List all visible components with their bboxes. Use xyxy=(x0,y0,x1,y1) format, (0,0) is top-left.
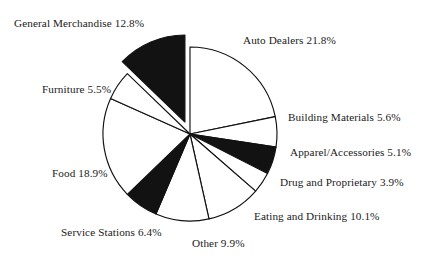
pie-slice-label: Drug and Proprietary 3.9% xyxy=(280,177,404,188)
pie-slice-label: Other 9.9% xyxy=(192,238,245,249)
pie-slice-label: Auto Dealers 21.8% xyxy=(243,35,336,46)
pie-slice-label: Building Materials 5.6% xyxy=(288,112,401,123)
pie-chart-figure: Auto Dealers 21.8%Building Materials 5.6… xyxy=(0,0,422,260)
pie-slice-label: General Merchandise 12.8% xyxy=(14,18,144,29)
pie-slice-label: Furniture 5.5% xyxy=(42,84,111,95)
pie-slice-label: Service Stations 6.4% xyxy=(61,227,162,238)
pie-slice-label: Apparel/Accessories 5.1% xyxy=(290,147,411,158)
pie-slice-label: Eating and Drinking 10.1% xyxy=(254,211,380,222)
pie-slice-label: Food 18.9% xyxy=(52,168,108,179)
